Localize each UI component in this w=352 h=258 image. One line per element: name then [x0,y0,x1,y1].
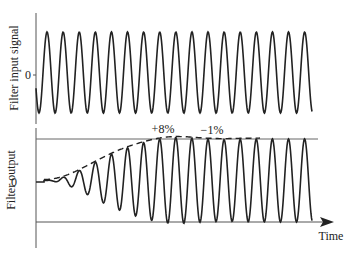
output-sine-wave [36,138,312,224]
input-signal-panel: 0 Filter input signal [7,13,312,124]
undershoot-label: −1% [201,123,224,137]
time-axis-label: Time [319,229,344,243]
input-y-label: Filter input signal [7,25,21,111]
filter-output-panel: 0 Filter output +8% −1% Time [4,122,343,248]
overshoot-label: +8% [152,122,175,136]
input-zero-label: 0 [25,68,31,82]
input-sine-wave [36,32,312,113]
output-y-label: Filter output [4,150,18,210]
filter-response-diagram: 0 Filter input signal 0 Filter output +8… [0,0,352,258]
